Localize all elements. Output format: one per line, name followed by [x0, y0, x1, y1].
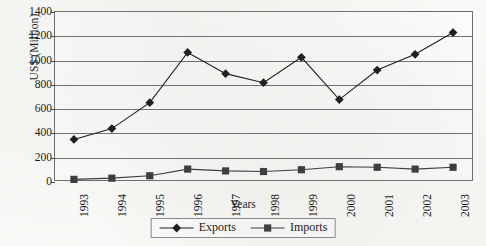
diamond-marker-icon — [183, 48, 192, 57]
legend-label: Imports — [290, 221, 327, 234]
diamond-marker-icon — [145, 98, 154, 107]
legend-label: Exports — [199, 221, 236, 234]
legend-entry-imports[interactable]: Imports — [250, 221, 327, 234]
diamond-marker-icon — [107, 124, 116, 133]
diamond-marker-icon — [70, 135, 79, 144]
square-marker-icon — [184, 166, 191, 173]
legend-swatch-imports — [250, 222, 286, 234]
y-tick-label: 1400 — [12, 6, 52, 17]
square-marker-icon — [108, 175, 115, 182]
diamond-marker-icon — [449, 28, 458, 37]
y-tick-label: 1200 — [12, 30, 52, 41]
y-tick-label: 0 — [12, 176, 52, 187]
y-tick-label: 200 — [12, 151, 52, 162]
series-plot — [55, 12, 472, 181]
diamond-marker-icon — [172, 223, 181, 232]
y-tick-label: 600 — [12, 103, 52, 114]
square-marker-icon — [264, 224, 271, 231]
square-marker-icon — [260, 168, 267, 175]
square-marker-icon — [374, 164, 381, 171]
y-tick-label: 1000 — [12, 54, 52, 65]
chart-legend: ExportsImports — [151, 218, 336, 238]
square-marker-icon — [336, 163, 343, 170]
square-marker-icon — [146, 172, 153, 179]
x-axis-title: Years — [0, 198, 486, 210]
y-tick-label: 800 — [12, 78, 52, 89]
square-marker-icon — [222, 167, 229, 174]
diamond-marker-icon — [411, 50, 420, 59]
diamond-marker-icon — [259, 78, 268, 87]
legend-entry-exports[interactable]: Exports — [159, 221, 236, 234]
plot-area — [54, 11, 473, 181]
legend-swatch-exports — [159, 222, 195, 234]
line-chart-figure: US$ (Million) 0200400600800100012001400 … — [0, 0, 486, 246]
diamond-marker-icon — [221, 69, 230, 78]
square-marker-icon — [298, 166, 305, 173]
square-marker-icon — [412, 166, 419, 173]
square-marker-icon — [70, 176, 77, 183]
y-tick-label: 400 — [12, 127, 52, 138]
square-marker-icon — [449, 164, 456, 171]
